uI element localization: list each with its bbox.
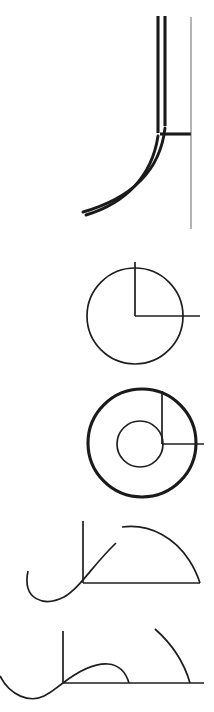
figure-sheet [0, 0, 214, 712]
line-drawing-canvas [0, 0, 214, 712]
